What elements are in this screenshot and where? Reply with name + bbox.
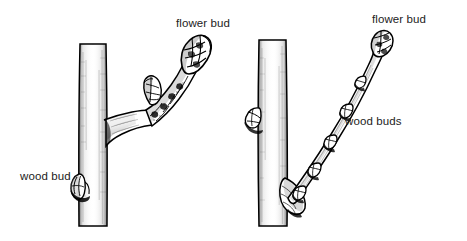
right-flower-bud-label: flower bud xyxy=(372,13,426,26)
left-spur-base xyxy=(104,110,152,146)
left-panel-group xyxy=(70,26,230,226)
right-flower-bud-shape xyxy=(371,30,393,57)
botanical-twig-diagram: flower bud wood bud flower bud wood buds xyxy=(0,0,467,241)
right-wood-bud-5 xyxy=(354,76,366,91)
left-flower-bud-label: flower bud xyxy=(176,17,230,30)
left-spur-lateral-bud xyxy=(144,76,161,105)
left-wood-bud-label: wood bud xyxy=(20,170,71,183)
left-flower-bud-shape xyxy=(181,35,211,74)
right-wood-buds-label: wood buds xyxy=(345,115,402,128)
